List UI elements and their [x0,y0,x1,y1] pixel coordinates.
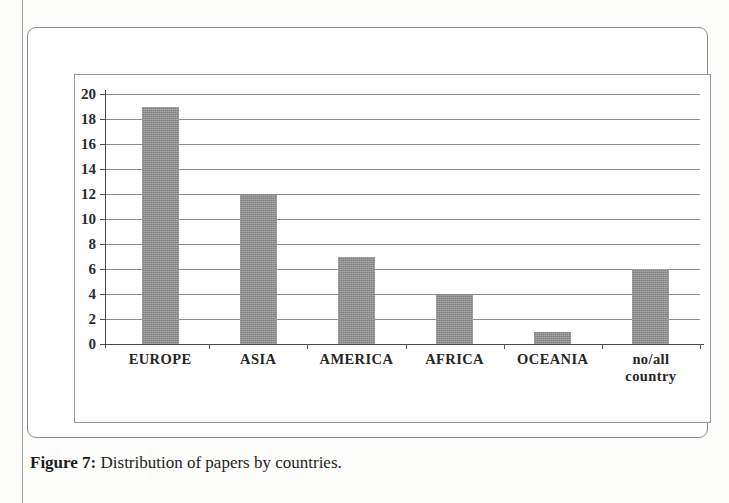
bar [240,194,277,344]
x-axis-category-label: ASIA [209,351,307,368]
x-axis-tick [406,344,407,349]
scanned-page: 20181614121086420 EUROPEASIAAMERICAAFRIC… [0,0,729,503]
page-margin-rule [22,0,23,503]
x-axis-category-label: AMERICA [307,351,405,368]
figure-caption-label: Figure 7: [30,453,96,472]
bar-chart: 20181614121086420 EUROPEASIAAMERICAAFRIC… [75,75,710,422]
figure-caption-body: Distribution of papers by countries. [101,453,342,472]
bar [632,269,669,344]
x-axis-category-label: EUROPE [111,351,209,368]
x-axis-category-label: OCEANIA [504,351,602,368]
x-axis-category-label: no/all country [602,351,700,384]
x-axis-tick [307,344,308,349]
x-axis-labels-group: EUROPEASIAAMERICAAFRICAOCEANIAno/all cou… [75,351,710,411]
x-axis-tick [209,344,210,349]
x-axis-tick [700,344,701,349]
figure-caption: Figure 7: Distribution of papers by coun… [30,452,700,473]
x-axis-tick [602,344,603,349]
x-axis-tick [504,344,505,349]
x-axis-line [101,344,704,345]
chart-plot-frame: 20181614121086420 EUROPEASIAAMERICAAFRIC… [74,74,711,423]
bars-group [75,75,710,344]
x-axis-category-label: AFRICA [406,351,504,368]
bar [142,107,179,345]
bar [534,332,571,345]
bar [338,257,375,345]
bar [436,294,473,344]
figure-outer-box: 20181614121086420 EUROPEASIAAMERICAAFRIC… [27,27,708,438]
